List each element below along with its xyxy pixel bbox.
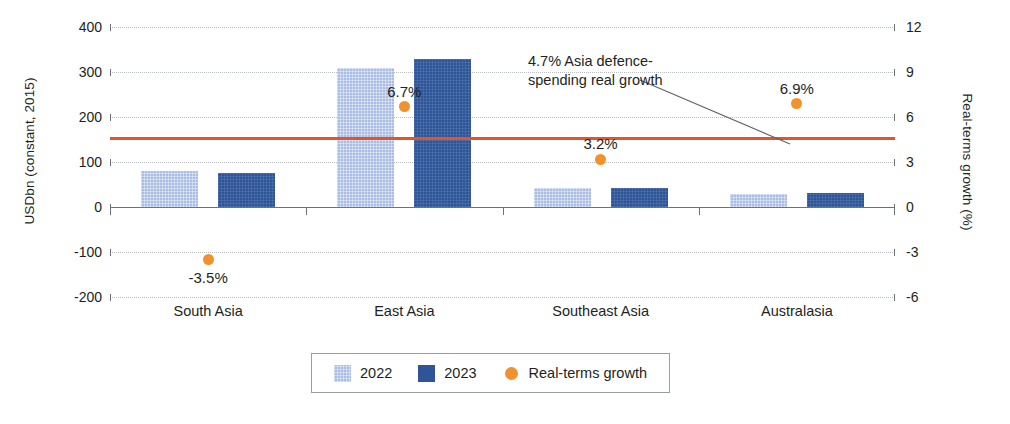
y-axis-right-tick (894, 159, 895, 166)
x-axis-tick (894, 207, 895, 215)
growth-dot-south-asia (203, 254, 214, 265)
y-axis-right-tick (894, 249, 895, 256)
x-axis-tick (503, 207, 504, 215)
y-axis-left-tick-label: -200 (42, 290, 102, 304)
bar-2022-south-asia (141, 171, 198, 207)
y-axis-left-tick (110, 159, 111, 166)
x-axis-category-label: Southeast Asia (552, 303, 649, 319)
y-axis-left-tick-label: 300 (42, 65, 102, 79)
y-axis-right-tick (894, 24, 895, 31)
gridline (110, 72, 895, 73)
y-axis-right-tick-label: -6 (906, 290, 966, 304)
x-axis-category-label: South Asia (173, 303, 242, 319)
gridline (110, 252, 895, 253)
y-axis-left-tick (110, 114, 111, 121)
y-axis-right-tick-label: -3 (906, 245, 966, 259)
legend-swatch-icon (418, 365, 435, 382)
gridline (110, 297, 895, 298)
y-axis-left-tick (110, 249, 111, 256)
growth-label-south-asia: -3.5% (168, 269, 248, 286)
annotation-line-1: 4.7% Asia defence- (528, 52, 718, 71)
x-axis-tick (110, 207, 111, 215)
x-axis-category-label: East Asia (374, 303, 434, 319)
y-axis-right-tick-labels: 129630-3-6 (906, 27, 966, 297)
growth-dot-east-asia (399, 101, 410, 112)
y-axis-left-tick (110, 24, 111, 31)
legend-dot-icon (505, 367, 518, 380)
legend-label: 2022 (360, 365, 392, 381)
y-axis-left-tick (110, 294, 111, 301)
bar-2023-australasia (807, 193, 864, 207)
bar-2022-australasia (730, 194, 787, 208)
legend-label: Real-terms growth (529, 365, 647, 381)
legend-item-2022[interactable]: 2022 (334, 365, 392, 382)
x-axis-tick (699, 207, 700, 215)
gridline (110, 162, 895, 163)
growth-dot-southeast-asia (595, 154, 606, 165)
growth-label-east-asia: 6.7% (364, 83, 444, 100)
x-axis-category-label: Australasia (761, 303, 833, 319)
chart-container: USDbn (constant, 2015) Real-terms growth… (0, 0, 1010, 424)
gridline (110, 27, 895, 28)
y-axis-right-tick-label: 0 (906, 200, 966, 214)
bar-2023-southeast-asia (611, 188, 668, 207)
bar-2022-southeast-asia (534, 188, 591, 207)
y-axis-left-tick-label: 400 (42, 20, 102, 34)
y-axis-left-tick-label: 0 (42, 200, 102, 214)
legend-item-2023[interactable]: 2023 (418, 365, 476, 382)
y-axis-right-tick-label: 12 (906, 20, 966, 34)
plot-area: -3.5%6.7%3.2%6.9% (110, 27, 895, 297)
chart-legend: 20222023Real-terms growth (311, 353, 670, 393)
y-axis-right-tick-label: 3 (906, 155, 966, 169)
growth-label-southeast-asia: 3.2% (561, 135, 641, 152)
y-axis-right-tick-label: 9 (906, 65, 966, 79)
bar-2023-south-asia (218, 173, 275, 207)
y-axis-right-tick (894, 114, 895, 121)
y-axis-right-tick-label: 6 (906, 110, 966, 124)
legend-label: 2023 (444, 365, 476, 381)
y-axis-left-tick (110, 69, 111, 76)
legend-swatch-icon (334, 365, 351, 382)
y-axis-right-tick (894, 69, 895, 76)
x-axis-category-labels: South AsiaEast AsiaSoutheast AsiaAustral… (110, 303, 895, 325)
annotation-leader-line (640, 80, 800, 150)
reference-line-annotation: 4.7% Asia defence- spending real growth (528, 52, 718, 90)
y-axis-left-tick-label: 200 (42, 110, 102, 124)
y-axis-left-title: USDbn (constant, 2015) (22, 16, 40, 286)
y-axis-left-tick-labels: 4003002001000-100-200 (42, 27, 102, 297)
annotation-line-2: spending real growth (528, 71, 718, 90)
x-axis-tick (306, 207, 307, 215)
y-axis-left-tick-label: 100 (42, 155, 102, 169)
y-axis-left-tick-label: -100 (42, 245, 102, 259)
legend-item-real-terms-growth[interactable]: Real-terms growth (503, 365, 647, 381)
y-axis-right-tick (894, 294, 895, 301)
